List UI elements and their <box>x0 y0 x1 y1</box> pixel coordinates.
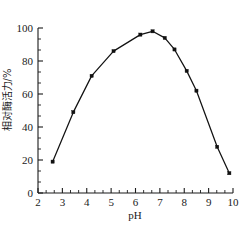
y-tick-label: 20 <box>22 154 34 166</box>
x-tick-label: 4 <box>84 196 90 208</box>
data-point-marker <box>51 160 54 163</box>
chart-canvas: 020406080100 2345678910 pH 相对酶活力/% <box>0 0 248 233</box>
y-tick-label: 40 <box>22 121 34 133</box>
data-point-marker <box>216 145 219 148</box>
x-tick-label: 10 <box>228 196 240 208</box>
y-axis-tick-labels: 020406080100 <box>17 22 34 199</box>
data-point-marker <box>195 89 198 92</box>
data-point-marker <box>163 36 166 39</box>
x-axis-title: pH <box>128 209 142 221</box>
x-tick-label: 9 <box>206 196 212 208</box>
data-point-marker <box>228 172 231 175</box>
data-point-marker <box>72 111 75 114</box>
y-axis-ticks <box>38 28 43 193</box>
x-tick-label: 8 <box>182 196 188 208</box>
y-tick-label: 0 <box>28 187 34 199</box>
data-point-marker <box>139 33 142 36</box>
y-tick-label: 100 <box>17 22 34 34</box>
x-tick-label: 5 <box>108 196 114 208</box>
enzyme-activity-ph-chart: 020406080100 2345678910 pH 相对酶活力/% <box>0 0 248 233</box>
x-axis-tick-labels: 2345678910 <box>35 196 239 208</box>
x-tick-label: 3 <box>60 196 66 208</box>
y-tick-label: 80 <box>22 55 34 67</box>
data-point-marker <box>90 74 93 77</box>
x-tick-label: 7 <box>157 196 163 208</box>
data-point-marker <box>173 48 176 51</box>
x-tick-label: 6 <box>133 196 139 208</box>
x-axis-ticks <box>38 188 233 193</box>
y-tick-label: 60 <box>22 88 34 100</box>
data-point-marker <box>112 50 115 53</box>
enzyme-activity-series-line <box>53 31 230 173</box>
data-point-marker <box>151 30 154 33</box>
data-point-marker <box>185 69 188 72</box>
y-axis-title: 相对酶活力/% <box>1 69 13 132</box>
x-tick-label: 2 <box>35 196 41 208</box>
